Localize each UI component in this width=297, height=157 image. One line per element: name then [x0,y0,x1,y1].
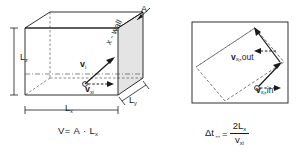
label-area-a: A [141,5,147,14]
formula-delta-t: Δt↔ = 2Lx vxi [205,121,249,147]
fraction-denominator: vxi [232,135,247,147]
delta-t-term: Δt↔ [205,128,220,140]
outgoing-trajectory-arrow [254,27,280,62]
equals-sign: = [222,129,228,139]
formula-volume: V= A · Lx [58,126,98,138]
dimension-line-lz [10,28,18,95]
label-velocity-vi: vi [80,60,86,70]
kinetic-theory-figure [0,0,297,157]
label-vx-in: vxi,in [256,86,273,97]
fraction-numerator: 2Lx [230,121,250,132]
label-velocity-component-vxi: vxi [85,85,94,96]
incoming-trajectory-arrow [258,62,282,87]
label-length-lx: Lx [65,104,73,114]
label-depth-ly: Ly [129,96,137,106]
label-vx-out: vxi,out [231,53,254,64]
velocity-vector-vi [85,57,115,84]
fraction: 2Lx vxi [230,121,250,147]
label-height-lz: Lz [20,53,28,63]
